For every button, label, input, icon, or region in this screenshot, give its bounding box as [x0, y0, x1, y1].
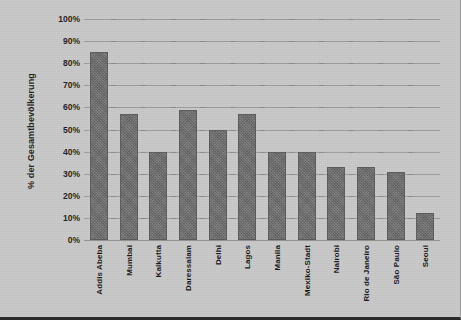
y-axis-tick-label: 90% [63, 36, 80, 46]
x-axis-tick-label: Daressalam [183, 245, 192, 291]
x-axis-label-slot: Mexiko-Stadt [292, 243, 322, 313]
x-axis-tick-label: Mumbai [124, 245, 133, 276]
y-axis-title-text: % der Gesamtbevölkerung [26, 73, 36, 189]
x-axis-tick-label: Lagos [243, 245, 252, 269]
x-axis-label-slot: Delhi [203, 243, 233, 313]
x-axis-tick-label: Rio de Janeiro [361, 245, 370, 302]
y-axis-tick-label: 30% [63, 169, 80, 179]
x-axis-label-slot: Manila [262, 243, 292, 313]
x-axis-tick-label: São Paulo [391, 245, 400, 285]
bar[interactable] [149, 152, 167, 240]
x-axis-tick-label: Delhi [213, 245, 222, 265]
x-axis-label-slot: Rio de Janeiro [351, 243, 381, 313]
bar[interactable] [120, 114, 138, 240]
bar[interactable] [209, 130, 227, 241]
x-axis-label-slot: São Paulo [381, 243, 411, 313]
bar-slot [321, 19, 351, 240]
bar-slot [203, 19, 233, 240]
bar-slot [143, 19, 173, 240]
bar-slot [262, 19, 292, 240]
x-axis-label-slot: Nairobi [321, 243, 351, 313]
x-axis-label-slot: Addis Abeba [84, 243, 114, 313]
bar[interactable] [387, 172, 405, 241]
bar-slot [292, 19, 322, 240]
bar[interactable] [416, 213, 434, 240]
bar[interactable] [357, 167, 375, 240]
bar-slot [351, 19, 381, 240]
y-axis-tick-label: 0% [68, 235, 80, 245]
x-axis-label-slot: Daressalam [173, 243, 203, 313]
bar[interactable] [238, 114, 256, 240]
axis-baseline [84, 240, 440, 241]
bar-slot [173, 19, 203, 240]
bar[interactable] [298, 152, 316, 240]
y-axis-tick-label: 50% [63, 125, 80, 135]
x-axis-label-slot: Mumbai [114, 243, 144, 313]
x-axis-tick-label: Manila [272, 245, 281, 271]
y-axis-tick-label: 100% [58, 14, 80, 24]
x-axis-tick-labels: Addis AbebaMumbaiKalkuttaDaressalamDelhi… [84, 243, 440, 313]
y-axis-tick-label: 60% [63, 102, 80, 112]
bar-slot [410, 19, 440, 240]
bar-slot [381, 19, 411, 240]
x-axis-tick-label: Seoul [421, 245, 430, 267]
plot-area [84, 19, 440, 240]
bar[interactable] [327, 167, 345, 240]
y-axis-tick-label: 10% [63, 213, 80, 223]
x-axis-tick-label: Addis Abeba [94, 245, 103, 295]
x-axis-tick-label: Mexiko-Stadt [302, 245, 311, 296]
x-axis-tick-label: Nairobi [332, 245, 341, 273]
x-axis-label-slot: Seoul [410, 243, 440, 313]
y-axis-tick-label: 70% [63, 80, 80, 90]
bar[interactable] [268, 152, 286, 240]
bar-chart-figure: % der Gesamtbevölkerung 100%90%80%70%60%… [0, 0, 461, 320]
x-axis-tick-label: Kalkutta [154, 245, 163, 277]
bar[interactable] [179, 110, 197, 240]
y-axis-tick-label: 40% [63, 147, 80, 157]
bar-slot [232, 19, 262, 240]
y-axis-title: % der Gesamtbevölkerung [22, 18, 40, 243]
bar-slot [84, 19, 114, 240]
bars-layer [84, 19, 440, 240]
y-axis-tick-labels: 100%90%80%70%60%50%40%30%20%10%0% [42, 13, 80, 245]
bar[interactable] [90, 52, 108, 240]
y-axis-tick-label: 20% [63, 191, 80, 201]
x-axis-label-slot: Lagos [232, 243, 262, 313]
bar-slot [114, 19, 144, 240]
x-axis-label-slot: Kalkutta [143, 243, 173, 313]
y-axis-tick-label: 80% [63, 58, 80, 68]
